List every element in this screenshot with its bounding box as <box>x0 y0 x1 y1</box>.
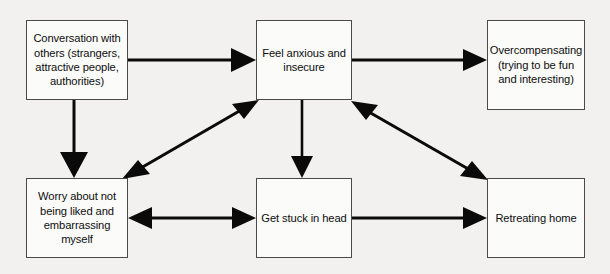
arrow-feel-anxious-to-get-stuck <box>291 100 313 178</box>
arrow-conversation-to-worry <box>60 100 88 178</box>
arrow-conversation-to-feel-anxious <box>128 48 256 72</box>
node-retreating-home-label: Retreating home <box>488 211 584 225</box>
node-get-stuck-in-head-label: Get stuck in head <box>257 211 351 225</box>
node-conversation-with-others-label: Conversation with others (strangers, att… <box>27 31 127 89</box>
node-get-stuck-in-head[interactable]: Get stuck in head <box>256 178 352 258</box>
node-feel-anxious-and-insecure-label: Feel anxious and insecure <box>257 46 351 75</box>
node-overcompensating-label: Overcompensating (trying to be fun and i… <box>488 43 584 86</box>
arrow-get-stuck-to-retreating <box>352 207 487 229</box>
arrow-feel-anxious-and-retreating <box>351 101 488 180</box>
node-retreating-home[interactable]: Retreating home <box>487 178 585 258</box>
arrow-feel-anxious-to-overcompensating <box>352 49 487 71</box>
node-worry-about-not-being-liked-label: Worry about not being liked and embarras… <box>27 189 127 247</box>
node-overcompensating[interactable]: Overcompensating (trying to be fun and i… <box>487 20 585 110</box>
arrow-worry-and-get-stuck <box>128 207 256 229</box>
node-worry-about-not-being-liked[interactable]: Worry about not being liked and embarras… <box>26 178 128 258</box>
node-conversation-with-others[interactable]: Conversation with others (strangers, att… <box>26 20 128 100</box>
node-feel-anxious-and-insecure[interactable]: Feel anxious and insecure <box>256 20 352 100</box>
diagram-canvas: Conversation with others (strangers, att… <box>0 0 610 274</box>
arrow-worry-and-feel-anxious <box>122 100 259 179</box>
